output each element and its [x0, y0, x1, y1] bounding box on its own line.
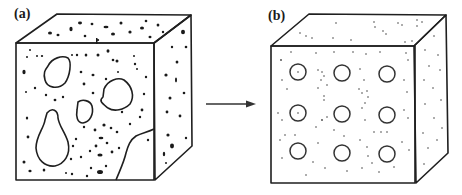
- circular-pore: [379, 107, 395, 123]
- circular-pore: [379, 146, 395, 162]
- pore-edge: [116, 129, 154, 180]
- cube-a-right-face: [154, 15, 192, 180]
- pore-shape: [101, 79, 133, 110]
- circular-pore: [334, 106, 350, 122]
- pore-shape: [44, 57, 70, 87]
- cube-b: [271, 14, 448, 183]
- transformation-arrow-icon: [206, 101, 256, 108]
- circular-pore: [334, 145, 350, 161]
- circular-pore: [379, 66, 395, 82]
- cube-a-front-face: [16, 43, 154, 180]
- circular-pore: [290, 143, 306, 159]
- pore-shape: [36, 110, 69, 166]
- cube-a: [16, 14, 192, 180]
- cube-b-pore-array: [290, 64, 395, 162]
- circular-pore: [334, 65, 350, 81]
- pore-shape: [77, 100, 93, 123]
- cube-b-right-face: [414, 15, 448, 183]
- cube-a-top-face: [16, 14, 191, 43]
